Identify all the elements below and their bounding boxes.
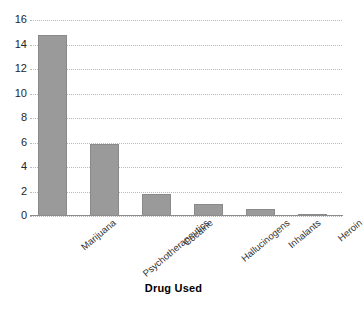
bar-marijuana bbox=[38, 35, 67, 216]
y-tick-label-0: 0 bbox=[3, 210, 27, 221]
x-label-heroin: Heroin bbox=[336, 217, 364, 243]
y-tick-label-16: 16 bbox=[3, 14, 27, 25]
y-tick-label-10: 10 bbox=[3, 88, 27, 99]
x-axis-line bbox=[30, 215, 343, 216]
x-axis-title: Drug Used bbox=[0, 282, 347, 294]
x-label-inhalants: Inhalants bbox=[286, 217, 323, 250]
y-tick-label-12: 12 bbox=[3, 63, 27, 74]
bar-psychotherapeutics bbox=[90, 144, 119, 216]
y-tick-label-4: 4 bbox=[3, 161, 27, 172]
y-axis-tick-labels: 0246810121416 bbox=[0, 20, 27, 216]
y-tick-label-6: 6 bbox=[3, 137, 27, 148]
x-label-marijuana: Marijuana bbox=[79, 217, 118, 252]
x-label-hallucinogens: Hallucinogens bbox=[239, 217, 292, 264]
x-axis-category-labels: MarijuanaPsychotherapeuticsCocaineHalluc… bbox=[30, 217, 342, 277]
bars-layer bbox=[30, 20, 342, 216]
y-tick-label-14: 14 bbox=[3, 39, 27, 50]
y-tick-label-2: 2 bbox=[3, 186, 27, 197]
bar-cocaine bbox=[142, 194, 171, 216]
y-tick-label-8: 8 bbox=[3, 112, 27, 123]
